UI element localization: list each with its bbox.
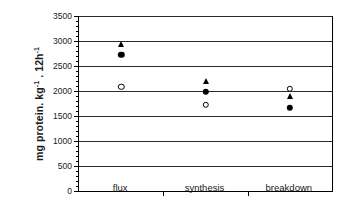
y-axis-tick-label: 2000 <box>53 86 72 96</box>
y-axis-minor-tick <box>76 176 79 177</box>
data-point-filled-circle-flux <box>118 52 124 58</box>
data-point-triangle-flux <box>118 41 124 47</box>
y-axis-minor-tick <box>76 131 79 132</box>
y-axis-minor-tick <box>76 96 79 97</box>
y-axis-minor-tick <box>76 81 79 82</box>
scatter-chart-figure: mg protein. kg-1 . 12h-1 050010001500200… <box>0 0 349 223</box>
y-axis-minor-tick <box>76 151 79 152</box>
y-axis-minor-tick <box>76 156 79 157</box>
y-axis-tick-mark <box>74 16 79 17</box>
data-point-filled-circle-breakdown <box>287 105 293 111</box>
y-axis-minor-tick <box>76 61 79 62</box>
x-axis-label-flux: flux <box>113 182 128 193</box>
y-axis-title-sup-1: -1 <box>33 81 40 87</box>
data-point-open-circle-synthesis <box>202 102 208 108</box>
y-axis-minor-tick <box>76 171 79 172</box>
y-axis-title-base-1: mg protein. kg <box>33 87 45 161</box>
y-axis-title-base-2: . 12h <box>33 53 45 80</box>
y-axis-minor-tick <box>76 146 79 147</box>
y-axis-tick-label: 2500 <box>53 61 72 71</box>
y-axis-minor-tick <box>76 121 79 122</box>
y-axis-tick-label: 1000 <box>53 136 72 146</box>
x-axis-label-synthesis: synthesis <box>185 182 225 193</box>
data-point-filled-circle-synthesis <box>202 89 208 95</box>
gridline <box>79 116 332 117</box>
y-axis-title: mg protein. kg-1 . 12h-1 <box>33 4 45 204</box>
y-axis-minor-tick <box>76 21 79 22</box>
y-axis-tick-mark <box>74 91 79 92</box>
y-axis-tick-mark <box>74 116 79 117</box>
y-axis-minor-tick <box>76 181 79 182</box>
y-axis-minor-tick <box>76 136 79 137</box>
gridline <box>79 141 332 142</box>
plot-area: 0500100015002000250030003500 <box>78 16 333 192</box>
y-axis-minor-tick <box>76 76 79 77</box>
x-axis-tick <box>248 191 249 196</box>
y-axis-title-sup-2: -1 <box>33 47 40 53</box>
y-axis-minor-tick <box>76 31 79 32</box>
gridline <box>79 41 332 42</box>
y-axis-minor-tick <box>76 51 79 52</box>
y-axis-tick-mark <box>74 66 79 67</box>
y-axis-tick-label: 1500 <box>53 111 72 121</box>
y-axis-tick-label: 500 <box>58 161 72 171</box>
y-axis-tick-mark <box>74 141 79 142</box>
y-axis-minor-tick <box>76 101 79 102</box>
y-axis-tick-mark <box>74 166 79 167</box>
y-axis-tick-mark <box>74 41 79 42</box>
y-axis-minor-tick <box>76 161 79 162</box>
y-axis-tick-label: 3500 <box>53 11 72 21</box>
gridline <box>79 166 332 167</box>
y-axis-tick-mark <box>74 191 79 192</box>
gridline <box>79 16 332 17</box>
data-point-triangle-synthesis <box>203 78 209 84</box>
y-axis-minor-tick <box>76 126 79 127</box>
y-axis-tick-label: 3000 <box>53 36 72 46</box>
y-axis-minor-tick <box>76 186 79 187</box>
data-point-open-circle-flux <box>118 83 124 89</box>
data-point-triangle-breakdown <box>287 93 293 99</box>
y-axis-minor-tick <box>76 106 79 107</box>
x-axis-tick <box>163 191 164 196</box>
y-axis-minor-tick <box>76 46 79 47</box>
x-axis-label-breakdown: breakdown <box>266 182 312 193</box>
y-axis-minor-tick <box>76 86 79 87</box>
y-axis-minor-tick <box>76 36 79 37</box>
y-axis-minor-tick <box>76 56 79 57</box>
y-axis-minor-tick <box>76 71 79 72</box>
y-axis-minor-tick <box>76 26 79 27</box>
y-axis-tick-label: 0 <box>67 186 72 196</box>
y-axis-minor-tick <box>76 111 79 112</box>
gridline <box>79 66 332 67</box>
